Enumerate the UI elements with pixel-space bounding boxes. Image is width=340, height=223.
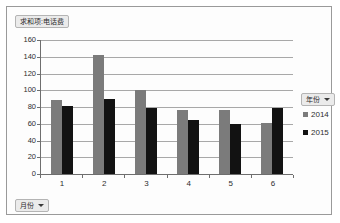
chart-legend: 20142015 <box>303 110 329 137</box>
x-axis-tick-mark <box>82 175 83 178</box>
value-field-label: 求和项:电话费 <box>20 17 64 26</box>
bar-2015-2[interactable] <box>104 99 115 174</box>
legend-swatch-icon <box>303 112 308 117</box>
y-axis-tick-mark <box>37 124 40 125</box>
y-axis-tick-mark <box>37 74 40 75</box>
bar-2014-3[interactable] <box>135 90 146 174</box>
x-axis-tick-mark <box>293 175 294 178</box>
plot-area <box>40 40 293 175</box>
x-axis-tick-label: 3 <box>125 179 167 188</box>
legend-item-2014: 2014 <box>303 110 329 119</box>
x-axis-tick-label: 2 <box>83 179 125 188</box>
legend-field-button[interactable]: 年份 <box>301 93 335 106</box>
legend-item-2015: 2015 <box>303 128 329 137</box>
bar-2015-3[interactable] <box>146 108 157 174</box>
legend-swatch-icon <box>303 130 308 135</box>
y-axis-tick-label: 100 <box>10 86 36 94</box>
bar-group <box>41 40 83 174</box>
y-axis-tick-label: 80 <box>10 103 36 111</box>
chevron-down-icon <box>324 98 330 101</box>
x-axis-tick-label: 6 <box>252 179 294 188</box>
x-axis-tick-label: 4 <box>168 179 210 188</box>
y-axis-tick-label: 160 <box>10 36 36 44</box>
chevron-down-icon <box>38 204 44 207</box>
bar-2014-1[interactable] <box>51 100 62 174</box>
x-axis-tick-label: 5 <box>210 179 252 188</box>
y-axis-tick-mark <box>37 40 40 41</box>
bar-group <box>209 40 251 174</box>
bar-2015-6[interactable] <box>272 108 283 174</box>
y-axis-tick-mark <box>37 90 40 91</box>
x-axis-tick-mark <box>209 175 210 178</box>
row-field-label: 月份 <box>20 201 34 210</box>
y-axis-tick-label: 60 <box>10 120 36 128</box>
y-axis-tick-label: 20 <box>10 153 36 161</box>
pivot-chart-frame: 求和项:电话费 160140120100806040200 123456 月份 … <box>6 6 332 215</box>
bar-group <box>83 40 125 174</box>
bar-2014-4[interactable] <box>177 110 188 174</box>
bar-2014-5[interactable] <box>219 110 230 174</box>
legend-label: 2014 <box>311 110 329 119</box>
legend-label: 2015 <box>311 128 329 137</box>
y-axis-tick-label: 0 <box>10 170 36 178</box>
x-axis-labels: 123456 <box>41 179 294 188</box>
x-axis-tick-mark <box>124 175 125 178</box>
bar-2014-2[interactable] <box>93 55 104 174</box>
bar-2015-1[interactable] <box>62 106 73 174</box>
bar-2015-4[interactable] <box>188 120 199 174</box>
x-axis-tick-mark <box>40 175 41 178</box>
bar-2015-5[interactable] <box>230 124 241 174</box>
y-axis-tick-label: 40 <box>10 137 36 145</box>
y-axis-tick-label: 140 <box>10 53 36 61</box>
x-axis-tick-mark <box>251 175 252 178</box>
bar-2014-6[interactable] <box>261 123 272 174</box>
y-axis-tick-label: 120 <box>10 70 36 78</box>
bar-group <box>125 40 167 174</box>
y-axis-tick-mark <box>37 157 40 158</box>
row-field-button[interactable]: 月份 <box>15 199 49 212</box>
legend-field-label: 年份 <box>306 95 320 104</box>
x-axis-tick-label: 1 <box>41 179 83 188</box>
bar-group <box>251 40 293 174</box>
y-axis-tick-mark <box>37 57 40 58</box>
bar-group <box>167 40 209 174</box>
y-axis-tick-mark <box>37 107 40 108</box>
bar-series-layer <box>41 40 293 174</box>
x-axis-tick-mark <box>167 175 168 178</box>
y-axis-tick-mark <box>37 141 40 142</box>
value-field-button[interactable]: 求和项:电话费 <box>15 15 69 28</box>
